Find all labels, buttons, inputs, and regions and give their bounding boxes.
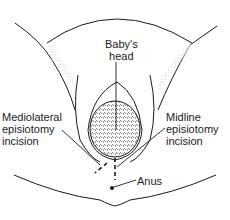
- babys-head: [90, 101, 140, 157]
- label-line: episiotomy: [166, 123, 219, 135]
- label-mediolateral: Mediolateral episiotomy incision: [2, 111, 62, 147]
- label-midline: Midline episiotomy incision: [166, 111, 219, 147]
- label-line: episiotomy: [2, 123, 62, 135]
- right-thigh-line: [158, 26, 217, 110]
- mediolateral-incision-line: [95, 163, 107, 173]
- label-line: incision: [2, 135, 62, 147]
- anus-dot: [110, 186, 114, 190]
- label-line: Baby's: [105, 38, 138, 50]
- label-line: incision: [166, 135, 219, 147]
- label-line: Midline: [166, 111, 219, 123]
- label-line: head: [105, 50, 138, 62]
- label-line: Mediolateral: [2, 111, 62, 123]
- label-babys-head: Baby's head: [105, 38, 138, 62]
- label-anus: Anus: [137, 175, 162, 187]
- episiotomy-illustration: [0, 0, 230, 220]
